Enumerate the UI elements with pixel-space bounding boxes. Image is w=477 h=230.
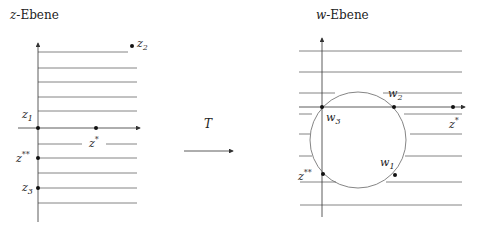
label-w-zstar: z* — [448, 116, 459, 131]
point-w1 — [393, 173, 397, 177]
point-z1 — [36, 126, 40, 130]
label-w3: w3 — [326, 111, 341, 126]
label-z1: z1 — [21, 108, 33, 123]
label-zstarstar: z** — [15, 150, 30, 165]
z-plane-title: z-Ebene — [9, 8, 59, 22]
point-z2 — [130, 44, 134, 48]
label-w-zstarstar: z** — [297, 168, 312, 183]
points — [36, 44, 134, 190]
point-zstar — [94, 126, 98, 130]
point-zstarstar — [36, 156, 40, 160]
w-plane-title: w-Ebene — [316, 8, 369, 22]
point-w-zstarstar — [321, 172, 325, 176]
transform-label: T — [204, 117, 213, 131]
horizontal-lines — [38, 52, 137, 203]
label-z3: z3 — [21, 181, 33, 196]
point-w-zstar — [451, 105, 455, 109]
point-w2 — [392, 105, 396, 109]
point-w3 — [320, 105, 324, 109]
z-plane: z-Ebene z2 z1 z* z** z3 — [9, 8, 148, 222]
diagram-canvas: z-Ebene z2 z1 z* z** z3 — [0, 0, 477, 230]
label-w1: w1 — [380, 156, 395, 171]
label-z2: z2 — [136, 37, 148, 52]
image-lines — [299, 51, 462, 205]
w-plane: w-Ebene w2 w3 w1 z* — [297, 8, 465, 217]
point-z3 — [36, 186, 40, 190]
label-zstar: z* — [88, 135, 99, 150]
label-w2: w2 — [388, 87, 403, 102]
transform: T — [184, 117, 233, 151]
